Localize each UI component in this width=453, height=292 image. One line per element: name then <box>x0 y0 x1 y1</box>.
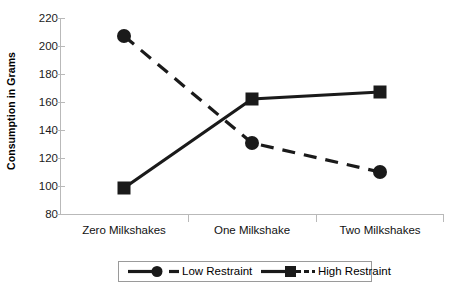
legend-marker-high-restraint <box>261 266 315 277</box>
legend: Low Restraint High Restraint <box>118 261 372 282</box>
data-point-marker-circle <box>373 165 387 179</box>
legend-marker-low-restraint <box>128 266 179 277</box>
x-tick-label: Two Milkshakes <box>316 224 444 236</box>
square-marker-icon <box>285 266 296 277</box>
x-tick-label: Zero Milkshakes <box>60 224 188 236</box>
data-point-marker-square <box>246 93 259 106</box>
data-point-marker-circle <box>117 29 131 43</box>
legend-label-low-restraint: Low Restraint <box>182 266 252 278</box>
data-point-marker-circle <box>245 136 259 150</box>
data-point-marker-square <box>118 182 131 195</box>
x-tick-label: One Milkshake <box>188 224 316 236</box>
x-axis-ticks <box>189 214 444 222</box>
legend-label-high-restraint: High Restraint <box>318 266 391 278</box>
line-chart: Consumption in Grams 220 200 180 160 140… <box>0 0 453 292</box>
data-point-marker-square <box>374 86 387 99</box>
circle-marker-icon <box>152 266 163 277</box>
plot-area <box>0 0 453 222</box>
